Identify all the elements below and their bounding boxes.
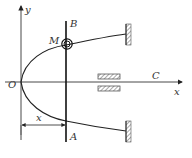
- origin-label: O: [8, 79, 16, 90]
- upper-wall-support: [126, 24, 131, 45]
- rod-bottom-label: A: [69, 131, 77, 142]
- guide-lower-block: [98, 86, 120, 91]
- guide-label: C: [152, 70, 160, 81]
- y-axis-label: y: [24, 4, 31, 15]
- ring-label: M: [48, 35, 60, 46]
- guide-upper-block: [98, 74, 120, 79]
- x-axis-label: x: [174, 86, 180, 97]
- mechanics-diagram: y x O C B A M x: [0, 0, 192, 158]
- lower-wall-support: [126, 121, 131, 142]
- dimension-label: x: [36, 112, 42, 123]
- rod-top-label: B: [69, 18, 77, 29]
